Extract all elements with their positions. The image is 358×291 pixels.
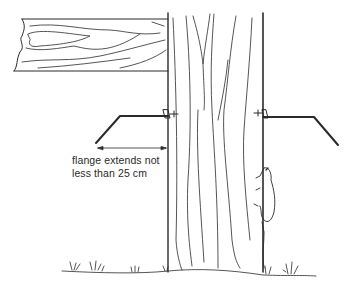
diagram-canvas: flange extends not less than 25 cm xyxy=(0,0,358,291)
flange-annotation-line2: less than 25 cm xyxy=(72,167,147,180)
flange-annotation-line1: flange extends not xyxy=(72,154,160,167)
illustration xyxy=(0,0,358,291)
dimension-arrow xyxy=(98,147,166,150)
climbing-animal xyxy=(254,168,275,268)
ground-grass xyxy=(62,261,316,276)
left-flange xyxy=(96,110,178,143)
tree-trunk xyxy=(168,13,263,272)
wooden-board xyxy=(14,19,168,71)
right-flange xyxy=(254,110,338,145)
